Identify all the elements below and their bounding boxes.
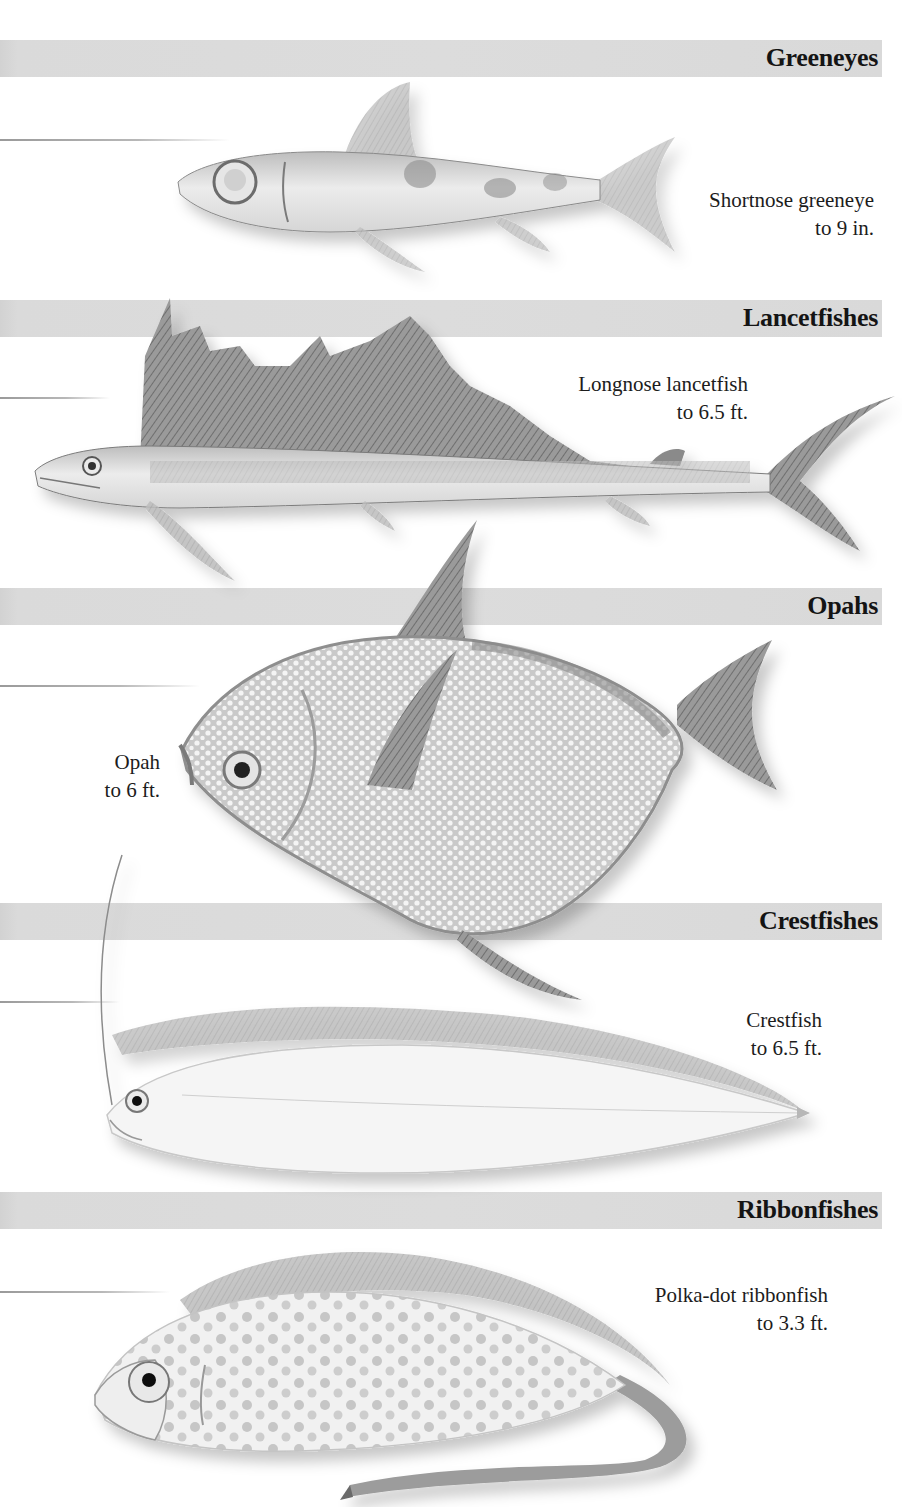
family-heading-opahs: Opahs bbox=[807, 591, 878, 621]
section-band-greeneyes bbox=[0, 40, 882, 77]
species-caption-opah: Opah to 6 ft. bbox=[105, 748, 160, 804]
species-name: Crestfish bbox=[746, 1006, 822, 1034]
species-name: Shortnose greeneye bbox=[709, 186, 874, 214]
crestfish-illustration bbox=[82, 855, 822, 1185]
species-caption-ribbonfish: Polka-dot ribbonfish to 3.3 ft. bbox=[655, 1281, 828, 1337]
species-caption-crestfish: Crestfish to 6.5 ft. bbox=[746, 1006, 822, 1062]
species-size: to 6.5 ft. bbox=[746, 1034, 822, 1062]
family-heading-ribbonfishes: Ribbonfishes bbox=[737, 1195, 878, 1225]
species-size: to 3.3 ft. bbox=[655, 1309, 828, 1337]
family-heading-lancetfishes: Lancetfishes bbox=[743, 303, 878, 333]
leader-line bbox=[0, 685, 200, 687]
species-size: to 6.5 ft. bbox=[578, 398, 748, 426]
species-name: Longnose lancetfish bbox=[578, 370, 748, 398]
species-name: Polka-dot ribbonfish bbox=[655, 1281, 828, 1309]
species-name: Opah bbox=[105, 748, 160, 776]
shortnose-greeneye-illustration bbox=[170, 82, 690, 282]
species-caption-greeneye: Shortnose greeneye to 9 in. bbox=[709, 186, 874, 242]
species-caption-lancetfish: Longnose lancetfish to 6.5 ft. bbox=[578, 370, 748, 426]
species-size: to 6 ft. bbox=[105, 776, 160, 804]
species-size: to 9 in. bbox=[709, 214, 874, 242]
family-heading-crestfishes: Crestfishes bbox=[759, 906, 878, 936]
family-heading-greeneyes: Greeneyes bbox=[766, 43, 878, 73]
